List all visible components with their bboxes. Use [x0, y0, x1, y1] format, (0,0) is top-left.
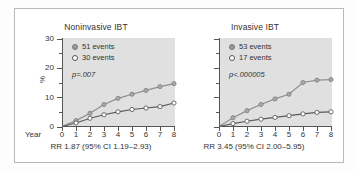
open-dot-marker [88, 116, 92, 120]
open-dot-marker [74, 121, 78, 125]
filled-dot-marker [231, 116, 235, 120]
open-dot-marker [259, 117, 263, 121]
filled-dot-marker [144, 88, 148, 92]
open-dot-marker [245, 119, 249, 123]
series-line [62, 84, 174, 127]
figure-frame: Noninvasive IBT % 0102030 012345678 Year… [14, 8, 344, 163]
open-dot-marker [329, 110, 333, 114]
filled-dot-marker [259, 102, 263, 106]
open-dot-marker [315, 110, 319, 114]
filled-dot-marker [172, 82, 176, 86]
filled-dot-marker [102, 102, 106, 106]
series-lines-noninvasive [15, 9, 187, 164]
open-dot-marker [172, 101, 176, 105]
filled-dot-marker [130, 92, 134, 96]
open-dot-marker [231, 121, 235, 125]
filled-dot-marker [329, 77, 333, 81]
filled-dot-marker [301, 80, 305, 84]
open-dot-marker [144, 106, 148, 110]
figure-container: Noninvasive IBT % 0102030 012345678 Year… [0, 0, 357, 171]
open-dot-marker [301, 112, 305, 116]
filled-dot-marker [315, 78, 319, 82]
filled-dot-marker [245, 109, 249, 113]
filled-dot-marker [273, 97, 277, 101]
series-lines-invasive [183, 9, 345, 164]
open-dot-marker [130, 107, 134, 111]
open-dot-marker [158, 104, 162, 108]
open-dot-marker [273, 115, 277, 119]
open-dot-marker [287, 114, 291, 118]
filled-dot-marker [287, 92, 291, 96]
panel-noninvasive: Noninvasive IBT % 0102030 012345678 Year… [15, 9, 187, 164]
series-line [62, 103, 174, 126]
filled-dot-marker [158, 85, 162, 89]
filled-dot-marker [88, 111, 92, 115]
filled-dot-marker [116, 96, 120, 100]
open-dot-marker [116, 110, 120, 114]
open-dot-marker [102, 113, 106, 117]
panel-invasive: Invasive IBT 012345678 53 events 17 even… [183, 9, 345, 164]
